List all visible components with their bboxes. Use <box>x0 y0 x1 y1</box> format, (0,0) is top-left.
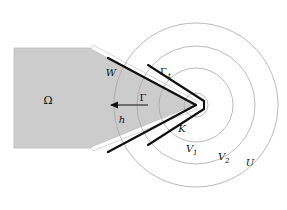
label-gamma: Γ <box>140 92 147 103</box>
label-U: U <box>246 157 255 168</box>
label-V2-subscript: 2 <box>224 157 230 165</box>
figure-canvas: Ω W Γ Γ t h K V 1 V 2 U <box>0 0 287 210</box>
label-V1-subscript: 1 <box>193 149 197 157</box>
label-K: K <box>177 123 186 134</box>
label-gamma-t-subscript: t <box>168 72 171 80</box>
label-omega: Ω <box>43 94 52 107</box>
label-h: h <box>119 114 125 125</box>
label-gamma-t: Γ t <box>160 66 171 80</box>
omega-region <box>14 48 196 148</box>
svg-text:Γ: Γ <box>160 66 167 77</box>
label-V1: V 1 <box>186 143 197 157</box>
label-V2: V 2 <box>218 151 230 165</box>
label-w: W <box>106 67 117 78</box>
wedge-domain-diagram: Ω W Γ Γ t h K V 1 V 2 U <box>0 0 287 210</box>
